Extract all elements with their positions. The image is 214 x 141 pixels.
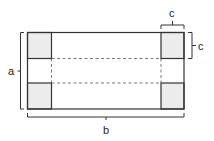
corner-square-top-right	[161, 33, 184, 59]
corner-square-bottom-left	[28, 83, 52, 109]
brace-c-top	[161, 21, 184, 29]
label-c-top: c	[169, 7, 175, 19]
label-c-right: c	[198, 40, 204, 52]
brace-c-right	[188, 33, 196, 59]
corner-square-bottom-right	[161, 83, 184, 109]
box-net-diagram: a b c c	[0, 0, 214, 141]
brace-a	[18, 33, 25, 110]
fold-lines	[52, 59, 162, 84]
label-b: b	[103, 124, 109, 136]
brace-b	[28, 113, 185, 120]
corner-square-top-left	[28, 33, 52, 59]
label-a: a	[8, 65, 15, 77]
